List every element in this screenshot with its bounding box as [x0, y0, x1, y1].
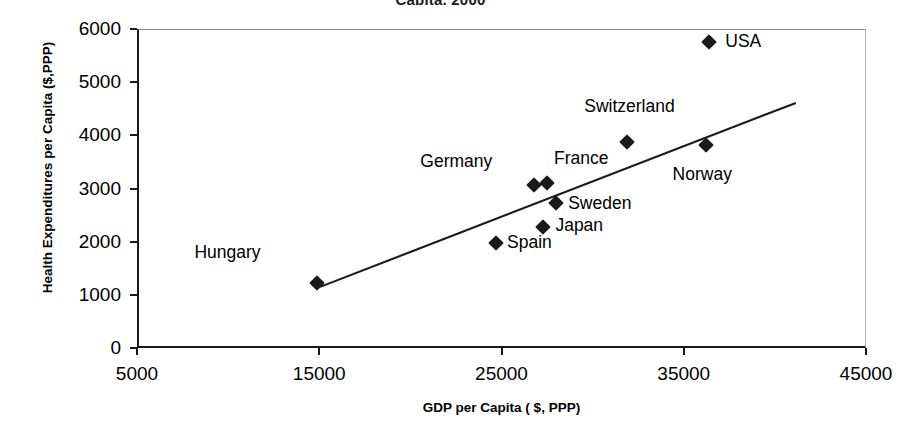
y-tick-label: 5000 — [51, 72, 121, 91]
x-tick-mark — [865, 348, 867, 355]
y-tick-mark — [130, 294, 137, 296]
y-tick-mark — [130, 188, 137, 190]
y-tick-mark — [130, 81, 137, 83]
data-point-label: Japan — [555, 217, 603, 235]
x-tick-label: 15000 — [259, 364, 379, 383]
data-point-label: Norway — [673, 166, 732, 184]
x-tick-mark — [318, 348, 320, 355]
y-tick-label: 1000 — [51, 285, 121, 304]
x-axis-title: GDP per Capita ( $, PPP) — [137, 400, 866, 415]
x-tick-label: 25000 — [442, 364, 562, 383]
x-tick-mark — [501, 348, 503, 355]
data-point-label: Switzerland — [584, 98, 674, 116]
data-point-label: Hungary — [194, 244, 260, 262]
x-tick-mark — [683, 348, 685, 355]
y-tick-label: 2000 — [51, 232, 121, 251]
data-point-label: France — [554, 150, 608, 168]
y-tick-label: 0 — [51, 338, 121, 357]
x-tick-mark — [136, 348, 138, 355]
data-point-label: Spain — [507, 234, 552, 252]
y-tick-label: 6000 — [51, 19, 121, 38]
data-point-label: USA — [725, 33, 761, 51]
plot-area — [137, 29, 866, 348]
y-tick-mark — [130, 28, 137, 30]
y-tick-mark — [130, 241, 137, 243]
y-tick-mark — [130, 134, 137, 136]
chart-title: Capita, 2000 — [0, 0, 881, 5]
x-tick-label: 35000 — [624, 364, 744, 383]
x-tick-label: 45000 — [806, 364, 897, 383]
x-tick-label: 5000 — [77, 364, 197, 383]
y-tick-label: 4000 — [51, 125, 121, 144]
y-tick-label: 3000 — [51, 179, 121, 198]
data-point-label: Sweden — [568, 195, 631, 213]
data-point-label: Germany — [420, 153, 492, 171]
y-axis-title: Health Expenditures per Capita ($,PPP) — [40, 18, 55, 318]
